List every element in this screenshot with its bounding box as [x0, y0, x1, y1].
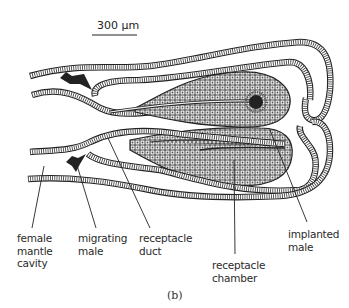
- label-receptacle-duct: receptacle duct: [139, 232, 192, 257]
- anatomical-figure: 300 μm female mantle cavity migrating ma…: [0, 0, 349, 308]
- label-receptacle-chamber: receptacle chamber: [212, 259, 265, 284]
- label-female-mantle-cavity: female mantle cavity: [17, 232, 53, 270]
- label-migrating-male: migrating male: [78, 232, 127, 257]
- panel-label: (b): [167, 289, 183, 302]
- leader-migrating-male: [76, 162, 96, 228]
- migrating-male-upper: [60, 72, 92, 90]
- scale-bar-label: 300 μm: [97, 19, 139, 32]
- implanted-male-upper: [249, 95, 263, 109]
- label-implanted-male: implanted male: [288, 228, 339, 253]
